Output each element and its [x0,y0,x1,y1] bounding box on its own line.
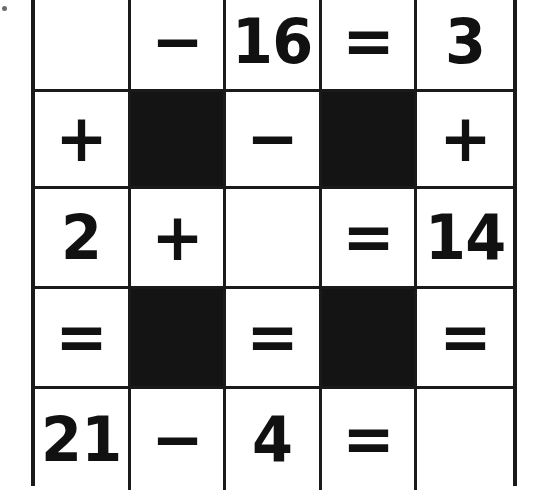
blocked-cell [131,92,227,189]
puzzle-cell[interactable]: 3 [417,0,513,92]
operator-glyph: = [342,205,394,271]
puzzle-cell[interactable]: = [417,289,513,389]
number-glyph: 16 [232,11,312,73]
puzzle-cell[interactable]: = [35,289,131,389]
puzzle-cell[interactable]: = [226,289,322,389]
blocked-cell [322,92,418,189]
operator-glyph: + [55,106,107,172]
operator-glyph: − [151,9,203,75]
blocked-cell [131,289,227,389]
puzzle-cell[interactable] [417,389,513,490]
puzzle-cell[interactable]: 4 [226,389,322,490]
blocked-cell [322,289,418,389]
puzzle-cell[interactable]: − [131,0,227,92]
puzzle-cell[interactable]: 2 [35,189,131,289]
puzzle-grid: −16=3+−+2+=14===21−4= [31,0,517,486]
operator-glyph: − [151,407,203,473]
puzzle-cell[interactable]: = [322,0,418,92]
number-glyph: 14 [425,207,505,269]
puzzle-cell[interactable]: − [131,389,227,490]
number-glyph: 2 [61,207,101,269]
puzzle-cell[interactable]: = [322,389,418,490]
puzzle-cell[interactable]: 16 [226,0,322,92]
scan-artifact-speck [2,6,7,11]
operator-glyph: + [439,106,491,172]
puzzle-cell[interactable]: + [35,92,131,189]
number-glyph: 21 [41,409,121,471]
operator-glyph: + [151,205,203,271]
puzzle-cell[interactable]: − [226,92,322,189]
operator-glyph: = [342,407,394,473]
operator-glyph: = [55,305,107,371]
puzzle-cell[interactable] [35,0,131,92]
number-glyph: 3 [445,11,485,73]
puzzle-page: −16=3+−+2+=14===21−4= [0,0,539,498]
puzzle-cell[interactable]: 14 [417,189,513,289]
number-glyph: 4 [252,409,292,471]
operator-glyph: = [342,9,394,75]
puzzle-cell[interactable]: = [322,189,418,289]
puzzle-cell[interactable]: 21 [35,389,131,490]
operator-glyph: = [247,305,299,371]
operator-glyph: − [247,106,299,172]
puzzle-cell[interactable] [226,189,322,289]
puzzle-cell[interactable]: + [417,92,513,189]
puzzle-cell[interactable]: + [131,189,227,289]
operator-glyph: = [439,305,491,371]
